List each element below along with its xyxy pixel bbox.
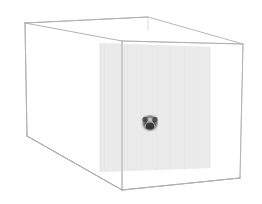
- slice-plane-wash: [100, 43, 210, 172]
- blob-lobe-right: [152, 117, 157, 123]
- blob-lobe-left: [142, 117, 147, 123]
- visualization-viewport[interactable]: 3D Volume Slice Visualization: [0, 0, 262, 204]
- slice-plane-group[interactable]: [100, 43, 210, 172]
- blob-core: [146, 122, 154, 129]
- dark-blob-marker[interactable]: [142, 115, 159, 132]
- scene-canvas[interactable]: [0, 0, 262, 204]
